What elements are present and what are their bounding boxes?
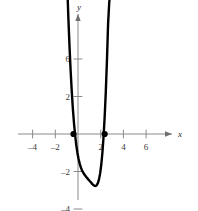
y-axis-label: y bbox=[76, 2, 81, 12]
coordinate-plot: –4 –2 2 4 6 6 2 –2 –4 x y bbox=[0, 0, 198, 211]
graph-figure: –4 –2 2 4 6 6 2 –2 –4 x y bbox=[0, 0, 198, 211]
x-intercept-left-marker bbox=[70, 131, 76, 137]
x-tick-label-neg2: –2 bbox=[50, 142, 60, 152]
y-tick-label-neg2: –2 bbox=[60, 167, 70, 177]
x-tick-label-6: 6 bbox=[144, 142, 149, 152]
x-axis-label: x bbox=[177, 129, 182, 139]
x-intercept-right-marker bbox=[102, 131, 108, 137]
x-tick-label-neg4: –4 bbox=[27, 142, 38, 152]
y-tick-label-2: 2 bbox=[66, 92, 71, 102]
y-tick-label-neg4: –4 bbox=[60, 204, 71, 211]
x-tick-label-4: 4 bbox=[121, 142, 126, 152]
